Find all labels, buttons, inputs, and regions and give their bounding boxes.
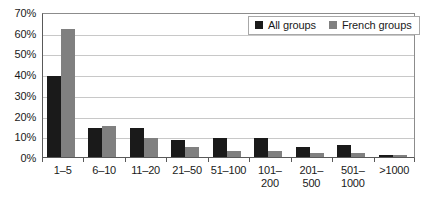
- x-axis-tick-label: 101–200: [249, 164, 290, 190]
- y-axis-tick-label: 60%: [15, 28, 36, 39]
- y-axis: 0%10%20%30%40%50%60%70%: [0, 0, 40, 199]
- bar-group: [209, 14, 250, 157]
- x-axis-tick: [374, 158, 375, 162]
- y-axis-tick-label: 70%: [15, 8, 36, 19]
- x-axis-tick-label: 1–5: [42, 164, 83, 177]
- x-axis-tick-label-line: 1–5: [42, 164, 83, 177]
- y-axis-tick-label: 20%: [15, 111, 36, 122]
- x-axis-tick-label-line: >1000: [374, 164, 415, 177]
- bar: [379, 155, 393, 157]
- bar: [213, 138, 227, 157]
- x-axis-tick-label-line: 6–10: [83, 164, 124, 177]
- legend-label: French groups: [342, 19, 412, 31]
- y-axis-tick-label: 10%: [15, 132, 36, 143]
- x-axis-tick: [291, 158, 292, 162]
- x-axis-tick: [249, 158, 250, 162]
- x-axis-tick-label-line: 500: [291, 177, 332, 190]
- bar-group: [84, 14, 125, 157]
- bars-layer: [43, 14, 414, 157]
- chart-legend: All groupsFrench groups: [248, 16, 420, 35]
- bar-group: [375, 14, 416, 157]
- bar-group: [126, 14, 167, 157]
- bar: [337, 145, 351, 157]
- bar-group: [333, 14, 374, 157]
- legend-label: All groups: [268, 19, 316, 31]
- bar: [310, 153, 324, 157]
- x-axis-tick: [166, 158, 167, 162]
- bar: [171, 140, 185, 157]
- y-axis-tick-label: 30%: [15, 90, 36, 101]
- bar-group: [167, 14, 208, 157]
- x-axis-tick: [332, 158, 333, 162]
- bar: [88, 128, 102, 157]
- x-axis-tick-label-line: 1000: [332, 177, 373, 190]
- bar: [130, 128, 144, 157]
- x-axis-tick-label: 51–100: [208, 164, 249, 177]
- bar: [227, 151, 241, 157]
- legend-item: All groups: [255, 19, 316, 31]
- y-axis-tick-label: 40%: [15, 70, 36, 81]
- legend-swatch-icon: [329, 21, 337, 29]
- x-axis-tick-label-line: 101–: [249, 164, 290, 177]
- bar: [268, 151, 282, 157]
- x-axis-tick: [83, 158, 84, 162]
- y-axis-tick-label: 0%: [21, 153, 37, 164]
- x-axis-tick-label-line: 21–50: [166, 164, 207, 177]
- bar: [102, 126, 116, 157]
- x-axis-tick-label: 201–500: [291, 164, 332, 190]
- x-axis-tick-label: 6–10: [83, 164, 124, 177]
- bar: [254, 138, 268, 157]
- x-axis-tick-label-line: 201–: [291, 164, 332, 177]
- bar: [296, 147, 310, 157]
- bar-group: [292, 14, 333, 157]
- x-axis-tick-label: >1000: [374, 164, 415, 177]
- bar: [47, 76, 61, 157]
- bar: [393, 155, 407, 157]
- legend-item: French groups: [329, 19, 412, 31]
- bar-group: [250, 14, 291, 157]
- legend-swatch-icon: [255, 21, 263, 29]
- x-axis: 1–56–1011–2021–5051–100101–200201–500501…: [42, 164, 415, 198]
- x-axis-tick-label-line: 51–100: [208, 164, 249, 177]
- x-axis-tick: [208, 158, 209, 162]
- y-axis-tick-label: 50%: [15, 49, 36, 60]
- bar: [351, 153, 365, 157]
- x-axis-tick: [125, 158, 126, 162]
- x-axis-tick-label: 501–1000: [332, 164, 373, 190]
- bar-group: [43, 14, 84, 157]
- bar: [61, 29, 75, 157]
- bar-chart: 0%10%20%30%40%50%60%70% 1–56–1011–2021–5…: [0, 0, 434, 199]
- x-axis-tick: [42, 158, 43, 162]
- x-axis-tick-label-line: 200: [249, 177, 290, 190]
- bar: [185, 147, 199, 157]
- x-axis-ticks: [42, 158, 415, 163]
- x-axis-tick-label-line: 11–20: [125, 164, 166, 177]
- bar: [144, 138, 158, 157]
- x-axis-tick-label-line: 501–: [332, 164, 373, 177]
- x-axis-tick-label: 11–20: [125, 164, 166, 177]
- x-axis-tick-label: 21–50: [166, 164, 207, 177]
- x-axis-tick: [414, 158, 415, 162]
